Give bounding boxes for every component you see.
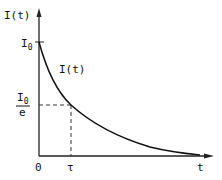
y-axis-arrow-icon: [37, 8, 42, 17]
y-axis-label: I(t): [4, 9, 31, 22]
decay-curve: [39, 42, 200, 155]
origin-label: 0: [35, 161, 42, 174]
tau-label: τ: [67, 161, 74, 174]
x-axis-arrow-icon: [204, 154, 214, 159]
i0e-denominator: e: [19, 106, 26, 119]
i0-label: I0: [21, 37, 33, 52]
decay-diagram: I(t) I0 I(t) I0 e 0 τ t: [0, 0, 222, 180]
curve-label: I(t): [59, 63, 86, 76]
x-axis-label: t: [197, 161, 204, 174]
i0e-numerator: I0: [17, 91, 29, 106]
